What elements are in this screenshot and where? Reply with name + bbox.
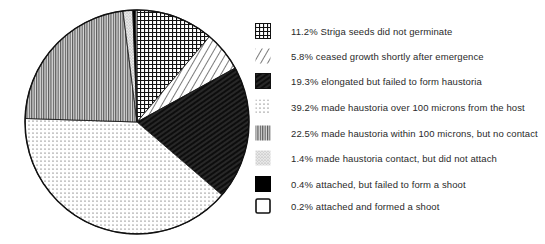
legend-item: 0.2% attached and formed a shoot bbox=[255, 197, 439, 215]
white-swatch-icon bbox=[255, 198, 271, 214]
legend-item: 1.4% made haustoria contact, but did not… bbox=[255, 149, 497, 167]
legend-item: 5.8% ceased growth shortly after emergen… bbox=[255, 47, 484, 65]
legend-item: 39.2% made haustoria over 100 microns fr… bbox=[255, 98, 525, 116]
dots-swatch-icon bbox=[255, 99, 271, 115]
legend-label: 0.2% attached and formed a shoot bbox=[291, 201, 439, 212]
legend-item: 0.4% attached, but failed to form a shoo… bbox=[255, 175, 466, 193]
legend-label: 22.5% made haustoria within 100 microns,… bbox=[291, 128, 538, 139]
dark-hatch-swatch-icon bbox=[255, 73, 271, 89]
diagonal-swatch-icon bbox=[255, 48, 271, 64]
pie-slice-vertical bbox=[25, 11, 137, 122]
legend-label: 19.3% elongated but failed to form haust… bbox=[291, 76, 482, 87]
legend-item: 19.3% elongated but failed to form haust… bbox=[255, 72, 482, 90]
solid-black-swatch-icon bbox=[255, 176, 271, 192]
legend-label: 1.4% made haustoria contact, but did not… bbox=[291, 153, 497, 164]
pie-chart bbox=[0, 0, 250, 244]
legend-label: 5.8% ceased growth shortly after emergen… bbox=[291, 51, 484, 62]
legend-label: 39.2% made haustoria over 100 microns fr… bbox=[291, 102, 525, 113]
legend-label: 11.2% Striga seeds did not germinate bbox=[291, 26, 452, 37]
legend-label: 0.4% attached, but failed to form a shoo… bbox=[291, 179, 466, 190]
legend-item: 22.5% made haustoria within 100 microns,… bbox=[255, 124, 538, 142]
vertical-lines-swatch-icon bbox=[255, 125, 271, 141]
legend-item: 11.2% Striga seeds did not germinate bbox=[255, 22, 452, 40]
crosshatch-swatch-icon bbox=[255, 23, 271, 39]
stipple-swatch-icon bbox=[255, 150, 271, 166]
